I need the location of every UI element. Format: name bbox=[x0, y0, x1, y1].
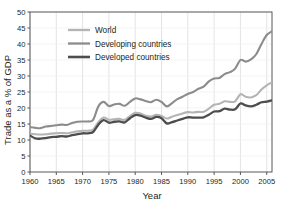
x-tick-label: 1990 bbox=[179, 177, 196, 186]
y-tick-label: 45 bbox=[17, 24, 25, 33]
x-tick-label: 2005 bbox=[258, 177, 275, 186]
x-tick-label: 1995 bbox=[206, 177, 223, 186]
legend-label-world: World bbox=[95, 26, 117, 35]
legend-label-developing-countries: Developing countries bbox=[95, 40, 171, 49]
y-tick-label: 15 bbox=[17, 120, 25, 129]
trade-gdp-line-chart: 05101520253035404550 1960196519701975198… bbox=[0, 0, 285, 203]
x-tick-label: 1960 bbox=[22, 177, 39, 186]
y-tick-label: 0 bbox=[21, 168, 25, 177]
y-tick-label: 50 bbox=[17, 8, 25, 17]
y-tick-label: 30 bbox=[17, 72, 25, 81]
x-axis-title: Year bbox=[142, 190, 161, 201]
y-tick-label: 25 bbox=[17, 88, 25, 97]
x-tick-label: 1965 bbox=[48, 177, 65, 186]
y-axis-title: Trade as a % of GDP bbox=[2, 55, 13, 145]
x-tick-label: 1970 bbox=[74, 177, 91, 186]
x-tick-label: 1975 bbox=[100, 177, 117, 186]
x-tick-label: 1985 bbox=[153, 177, 170, 186]
x-tick-label: 2000 bbox=[232, 177, 249, 186]
y-tick-label: 40 bbox=[17, 40, 25, 49]
x-tick-label: 1980 bbox=[127, 177, 144, 186]
chart-container: 05101520253035404550 1960196519701975198… bbox=[0, 0, 285, 203]
y-tick-label: 5 bbox=[21, 152, 25, 161]
y-tick-label: 35 bbox=[17, 56, 25, 65]
legend-label-developed-countries: Developed countries bbox=[95, 53, 170, 62]
y-tick-label: 10 bbox=[17, 136, 25, 145]
chart-background bbox=[0, 0, 285, 203]
y-tick-label: 20 bbox=[17, 104, 25, 113]
